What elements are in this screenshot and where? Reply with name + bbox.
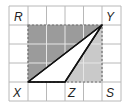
label-y: Y — [106, 10, 115, 24]
label-s: S — [106, 86, 114, 100]
label-z: Z — [67, 86, 76, 100]
label-r: R — [14, 10, 23, 24]
label-x: X — [12, 86, 22, 100]
geometry-diagram: R Y X Z S — [0, 0, 126, 109]
